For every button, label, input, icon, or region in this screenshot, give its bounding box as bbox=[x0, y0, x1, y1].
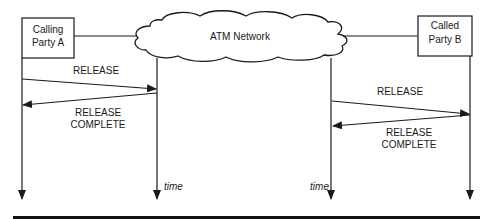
message-label: RELEASE bbox=[73, 65, 119, 76]
message-label-line1: RELEASE bbox=[75, 107, 121, 118]
party-a-label-line2: Party A bbox=[32, 37, 65, 48]
message-release-a-to-network: RELEASE bbox=[22, 65, 156, 89]
party-a-label-line1: Calling bbox=[33, 24, 64, 35]
message-release-network-to-b: RELEASE bbox=[332, 86, 469, 114]
message-arrow bbox=[22, 79, 156, 89]
message-label-line2: COMPLETE bbox=[70, 119, 125, 130]
sequence-diagram: ATM Network Calling Party A Called Party… bbox=[0, 0, 492, 219]
time-label-left: time bbox=[164, 181, 183, 192]
party-b-label-line1: Called bbox=[431, 20, 459, 31]
network-label: ATM Network bbox=[210, 31, 271, 42]
bottom-rule bbox=[13, 216, 480, 219]
message-label-line2: COMPLETE bbox=[381, 139, 436, 150]
message-arrow bbox=[23, 93, 157, 105]
called-party-b: Called Party B bbox=[418, 16, 472, 56]
message-label-line1: RELEASE bbox=[386, 127, 432, 138]
message-arrow bbox=[333, 115, 470, 126]
time-label-right: time bbox=[310, 181, 329, 192]
message-arrow bbox=[332, 101, 469, 114]
calling-party-a: Calling Party A bbox=[22, 18, 74, 58]
message-release-complete-network-to-a: RELEASE COMPLETE bbox=[23, 93, 157, 130]
atm-network-cloud: ATM Network bbox=[135, 11, 347, 62]
message-label: RELEASE bbox=[377, 86, 423, 97]
party-b-label-line2: Party B bbox=[429, 34, 462, 45]
message-release-complete-b-to-network: RELEASE COMPLETE bbox=[333, 115, 470, 150]
